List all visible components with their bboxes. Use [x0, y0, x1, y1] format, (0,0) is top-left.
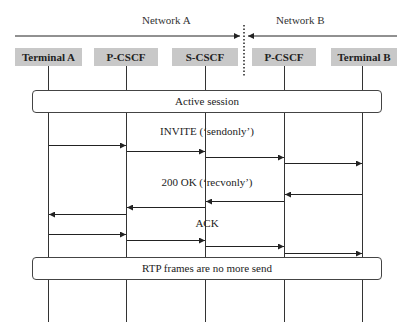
node-s-cscf: S-CSCF [172, 48, 238, 66]
node-p-cscf-a: P-CSCF [94, 48, 158, 66]
node-p-cscf-b: P-CSCF [252, 48, 316, 66]
node-terminal-a: Terminal A [15, 48, 82, 66]
msg-label-200ok: 200 OK (‘recvonly’) [127, 176, 287, 188]
node-terminal-b: Terminal B [331, 48, 397, 66]
msg-label-ack: ACK [127, 217, 287, 229]
msg-label-invite: INVITE (‘sendonly’) [127, 125, 287, 137]
band-active-session: Active session [32, 90, 382, 113]
band-rtp-stopped: RTP frames are no more send [32, 257, 382, 280]
